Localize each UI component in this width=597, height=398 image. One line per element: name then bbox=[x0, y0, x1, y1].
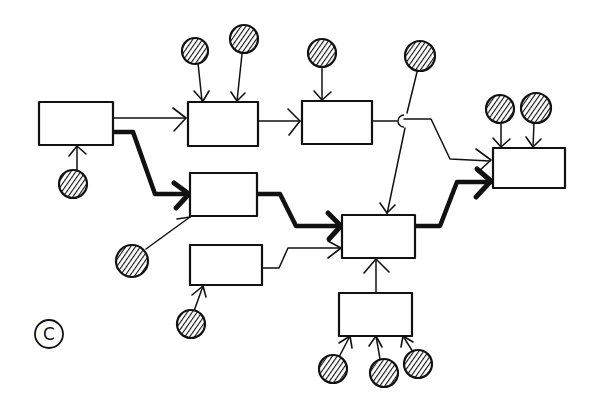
resource-circle-r5 bbox=[405, 41, 435, 71]
resource-circle-r10 bbox=[319, 355, 347, 383]
resource-circle-r1 bbox=[59, 170, 87, 198]
process-box-a bbox=[39, 102, 113, 145]
resource-link-r7 bbox=[526, 122, 541, 147]
resource-circle-r7 bbox=[521, 93, 551, 123]
resource-circle-r9 bbox=[177, 310, 205, 338]
edge-e-to-f bbox=[262, 241, 341, 268]
process-box-f bbox=[342, 215, 415, 258]
edge-f-to-h-critical bbox=[415, 169, 491, 226]
process-box-h bbox=[493, 148, 565, 188]
resource-circle-r6 bbox=[486, 95, 514, 123]
resource-link-r4 bbox=[314, 67, 331, 100]
copyright-letter: C bbox=[43, 324, 55, 344]
resource-link-r1 bbox=[69, 146, 86, 172]
resource-link-r12 bbox=[401, 336, 413, 352]
resource-link-r9 bbox=[192, 286, 206, 311]
resource-link-r11 bbox=[369, 336, 382, 359]
edge-b-to-c bbox=[258, 109, 300, 135]
resource-circle-r11 bbox=[370, 359, 398, 387]
process-box-e bbox=[190, 245, 262, 285]
edge-a-to-d-critical bbox=[113, 132, 189, 208]
edge-g-to-f bbox=[364, 259, 389, 293]
process-flow-diagram: C bbox=[0, 0, 597, 398]
resource-link-r6 bbox=[493, 123, 510, 147]
resource-link-r2 bbox=[194, 63, 209, 101]
process-box-g bbox=[339, 293, 412, 336]
process-box-d bbox=[190, 173, 257, 216]
resource-link-r8 bbox=[146, 217, 190, 249]
resource-circle-r12 bbox=[404, 350, 432, 378]
edge-d-to-f-critical bbox=[257, 194, 341, 239]
resource-circle-r3 bbox=[230, 25, 258, 53]
resource-circle-r2 bbox=[182, 38, 208, 64]
resource-circle-r4 bbox=[308, 39, 336, 67]
edge-a-to-b bbox=[113, 108, 186, 131]
resource-circle-r8 bbox=[116, 245, 148, 277]
edge-c-to-h bbox=[372, 115, 491, 172]
copyright-mark: C bbox=[35, 320, 63, 348]
process-box-c bbox=[302, 101, 372, 144]
process-box-b bbox=[188, 102, 258, 146]
line-hop bbox=[398, 115, 404, 127]
resource-link-r3 bbox=[231, 54, 245, 101]
resource-link-r5 bbox=[380, 72, 417, 214]
resource-link-r10 bbox=[339, 336, 352, 357]
